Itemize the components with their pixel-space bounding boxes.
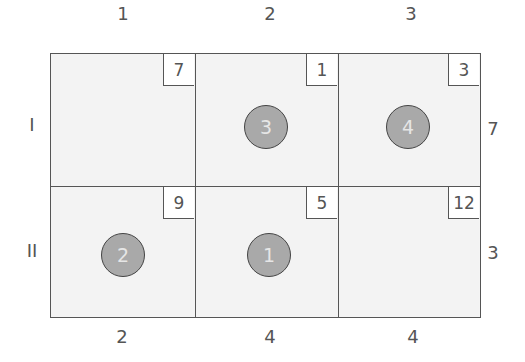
cell-II-3: 12 (339, 187, 479, 316)
cost-box: 9 (163, 187, 194, 219)
cost-box: 3 (448, 54, 479, 86)
cost-box: 12 (448, 187, 479, 219)
allocation-circle: 4 (386, 105, 430, 149)
transportation-table: 7 1 3 3 4 9 2 5 1 12 (50, 53, 481, 318)
demand-col-1: 2 (107, 328, 137, 346)
cost-box: 1 (306, 54, 337, 86)
column-label-3: 3 (396, 5, 426, 23)
supply-row-I: 7 (478, 120, 508, 138)
cost-box: 5 (306, 187, 337, 219)
cell-II-1: 9 2 (51, 187, 194, 316)
cell-I-1: 7 (51, 54, 194, 185)
cost-box: 7 (163, 54, 194, 86)
column-label-1: 1 (108, 5, 138, 23)
allocation-circle: 3 (244, 105, 288, 149)
demand-col-3: 4 (398, 328, 428, 346)
allocation-circle: 1 (247, 233, 291, 277)
cell-II-2: 5 1 (196, 187, 337, 316)
supply-row-II: 3 (478, 244, 508, 262)
column-label-2: 2 (255, 5, 285, 23)
row-label-I: I (17, 116, 47, 134)
demand-col-2: 4 (255, 328, 285, 346)
allocation-circle: 2 (101, 233, 145, 277)
row-label-II: II (17, 242, 47, 260)
cell-I-2: 1 3 (196, 54, 337, 185)
cell-I-3: 3 4 (339, 54, 479, 185)
